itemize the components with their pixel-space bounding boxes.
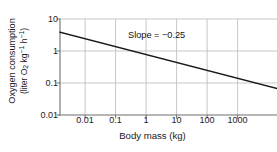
x-tick-label: 1 [144, 116, 149, 125]
chart-figure: Oxygen consumption (liter O2 kg−1 h−1) 1… [0, 0, 277, 152]
horizontal-gridlines [60, 19, 277, 83]
x-tick-label: 1000 [228, 116, 248, 125]
x-axis-title-text: Body mass (kg) [119, 130, 186, 141]
x-tick-label: 0.1 [109, 116, 122, 125]
x-tick-label: 100 [200, 116, 215, 125]
slope-annotation: Slope = −0.25 [128, 31, 185, 40]
x-axis-tick-labels: 0.01 0.1 1 10 100 1000 [0, 116, 277, 130]
data-series-line [60, 32, 277, 88]
x-tick-label: 10 [172, 116, 182, 125]
x-tick-label: 0.01 [76, 116, 94, 125]
x-axis-title: Body mass (kg) [0, 131, 277, 141]
